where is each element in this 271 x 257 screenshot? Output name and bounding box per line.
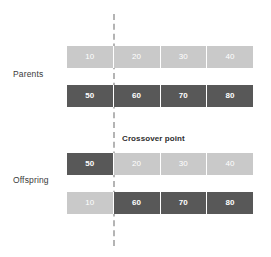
gene-cell: 40 — [207, 46, 253, 68]
gene-cell: 70 — [161, 192, 208, 214]
gene-cell: 20 — [114, 153, 161, 175]
gene-cell: 10 — [67, 192, 114, 214]
gene-cell: 10 — [67, 46, 114, 68]
crossover-diagram: Parents Offspring 10 20 30 40 50 60 70 8… — [0, 0, 271, 257]
gene-cell: 80 — [207, 85, 253, 107]
chromosome-bar-offspring-1: 50 20 30 40 — [67, 153, 253, 175]
gene-cell: 60 — [114, 192, 161, 214]
group-label-parents: Parents — [13, 69, 43, 79]
chromosome-bar-parent-2: 50 60 70 80 — [67, 85, 253, 107]
group-label-offspring: Offspring — [13, 175, 49, 185]
gene-cell: 30 — [161, 46, 208, 68]
gene-cell: 40 — [207, 153, 253, 175]
crossover-point-caption: Crossover point — [122, 134, 185, 143]
chromosome-bar-parent-1: 10 20 30 40 — [67, 46, 253, 68]
gene-cell: 20 — [114, 46, 161, 68]
gene-cell: 30 — [161, 153, 208, 175]
gene-cell: 50 — [67, 153, 114, 175]
gene-cell: 80 — [207, 192, 253, 214]
gene-cell: 60 — [114, 85, 161, 107]
gene-cell: 50 — [67, 85, 114, 107]
chromosome-bar-offspring-2: 10 60 70 80 — [67, 192, 253, 214]
gene-cell: 70 — [161, 85, 208, 107]
